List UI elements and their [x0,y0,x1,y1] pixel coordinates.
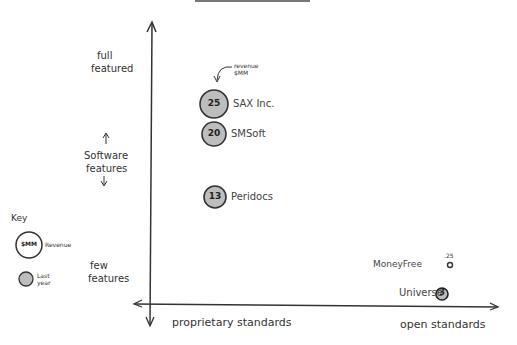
legend-revenue-symbol: $MM [17,240,41,247]
x-label-right: open standards [400,318,485,332]
moneyfree-value: .25 [444,252,454,260]
company-sax: SAX Inc. [233,98,274,109]
y-label-top-line2: featured [91,63,133,76]
revenue-annotation: revenue $MM [234,62,259,76]
annotation-line2: $MM [234,69,259,76]
y-label-middle-line1: Software [84,150,128,163]
company-smsoft: SMSoft [231,128,266,139]
bubble-sax-value: 25 [204,98,224,108]
legend-revenue-label: Revenue [45,241,71,249]
bubble-smsoft-value: 20 [204,128,224,138]
x-label-left: proprietary standards [172,316,291,330]
company-moneyfree: MoneyFree [373,259,422,269]
y-label-middle-line2: features [84,163,128,176]
bubble-peridocs-value: 13 [205,191,225,201]
legend-title: Key [11,213,27,224]
legend-lastyear-line2: year [37,279,50,286]
y-label-top-line1: full [91,50,133,63]
annotation-line1: revenue [234,62,259,69]
legend-lastyear-line1: Last [37,272,50,279]
y-label-middle: Software features [84,150,128,175]
y-label-top: full featured [91,50,133,75]
y-label-bottom-line1: few [88,260,129,273]
legend-lastyear-label: Last year [37,272,50,286]
y-label-bottom-line2: features [88,273,129,286]
y-label-bottom: few features [88,260,129,285]
company-universe: Universe [399,287,443,298]
company-peridocs: Peridocs [231,191,273,202]
